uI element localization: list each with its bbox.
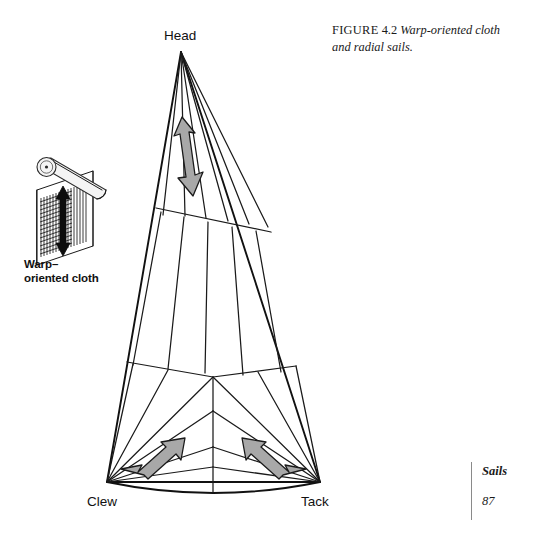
warp-oriented-cloth-illustration [37, 158, 106, 266]
figure-label: FIGURE [332, 23, 379, 37]
roll-center-dot [45, 165, 48, 168]
sail-corner-label-tack: Tack [301, 494, 329, 509]
footer-section-title: Sails [482, 464, 507, 479]
figure-page: .ln { fill:none; stroke:#1a1a1a; stroke-… [0, 0, 535, 546]
lower-cross-seam [127, 362, 296, 377]
figure-caption: FIGURE 4.2 Warp-oriented cloth and radia… [332, 22, 512, 56]
sail-corner-label-head: Head [164, 28, 196, 43]
footer-page-number: 87 [482, 494, 495, 509]
cloth-label-line-2: oriented cloth [24, 272, 99, 286]
head-radial-panels [163, 52, 268, 227]
figure-number: 4.2 [382, 23, 398, 37]
cloth-label-line-1: Warp– [24, 258, 99, 272]
upper-cross-seam [156, 208, 271, 232]
footer-divider-rule [471, 462, 472, 520]
warp-arrow-head-panel [174, 117, 203, 196]
sail-corner-label-clew: Clew [87, 494, 117, 509]
warp-oriented-cloth-label: Warp– oriented cloth [24, 258, 99, 285]
